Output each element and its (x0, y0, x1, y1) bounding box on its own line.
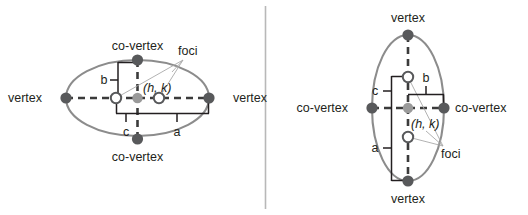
label-covertex-top: co-vertex (112, 39, 164, 53)
label-vertex-right: vertex (233, 91, 268, 105)
label-foci-vertical: foci (441, 147, 460, 161)
label-center-coordinates-vertical: (h, k) (411, 117, 439, 131)
label-vertex-bottom: vertex (391, 192, 426, 206)
label-vertex-left: vertex (8, 91, 43, 105)
label-b: b (101, 73, 108, 87)
label-c-vertical: c (372, 84, 378, 98)
center-dot (132, 93, 142, 103)
label-foci: foci (178, 44, 197, 58)
label-center-coordinates: (h, k) (143, 81, 171, 95)
vertex-dot-bottom (402, 175, 413, 186)
ellipse-diagram-svg: vertex vertex co-vertex co-vertex foci (… (0, 0, 528, 215)
vertex-dot-left (60, 92, 71, 103)
label-b-vertical: b (423, 71, 430, 85)
vertical-ellipse-group: vertex vertex co-vertex co-vertex foci (… (297, 11, 508, 206)
covertex-dot-top (132, 54, 143, 65)
horizontal-ellipse-group: vertex vertex co-vertex co-vertex foci (… (8, 39, 268, 164)
label-c: c (123, 125, 129, 139)
label-a-vertical: a (372, 141, 379, 155)
label-a: a (174, 125, 181, 139)
vertex-dot-right (203, 92, 214, 103)
vertex-dot-top (402, 29, 413, 40)
focus-point-upper (403, 72, 413, 82)
covertex-dot-right (438, 102, 449, 113)
focus-point-lower (403, 132, 413, 142)
center-dot-vertical (403, 103, 413, 113)
label-covertex-bottom: co-vertex (112, 150, 164, 164)
covertex-dot-left (366, 102, 377, 113)
focus-point-left (111, 93, 121, 103)
ellipse-figure: vertex vertex co-vertex co-vertex foci (… (0, 0, 528, 215)
label-vertex-top: vertex (391, 11, 426, 25)
label-covertex-left: co-vertex (297, 101, 349, 115)
covertex-dot-bottom (132, 133, 143, 144)
label-covertex-right: co-vertex (455, 101, 507, 115)
